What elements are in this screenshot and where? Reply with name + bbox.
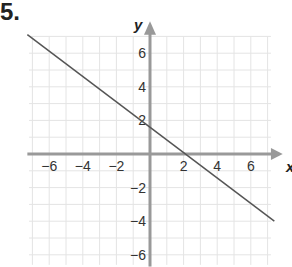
y-tick-label: −2 [130, 180, 146, 196]
y-tick-label: 4 [138, 79, 146, 95]
y-axis-label: y [133, 16, 143, 33]
x-tick-label: 4 [213, 158, 221, 174]
x-tick-label: 6 [247, 158, 255, 174]
x-axis-label: x [285, 158, 292, 175]
x-tick-label: −2 [108, 158, 124, 174]
y-tick-label: −4 [130, 213, 146, 229]
x-tick-label: 2 [180, 158, 188, 174]
x-tick-label: −6 [41, 158, 57, 174]
y-tick-label: 6 [138, 45, 146, 61]
y-axis-arrow-icon [144, 21, 156, 34]
y-tick-label: 2 [138, 112, 146, 128]
x-tick-label: −4 [75, 158, 91, 174]
x-axis-arrow-icon [271, 148, 283, 160]
y-tick-label: −6 [130, 247, 146, 263]
coordinate-plane: −6−4−2246642−2−4−6yx [0, 0, 292, 267]
